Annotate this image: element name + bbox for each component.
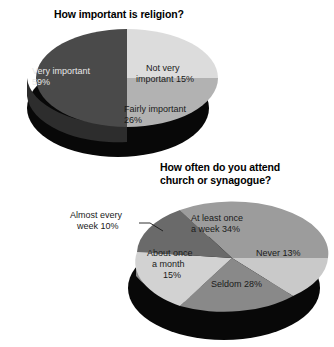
chart-2-pie: At least once a week 34% Never 13% Seldo…	[0, 0, 334, 347]
chart-2-label-never: Never 13%	[256, 248, 301, 258]
infographic-canvas: How important is religion? Very importan…	[0, 0, 334, 347]
chart-2-label-almost-every-week-line2: week 10%	[76, 221, 119, 231]
chart-2-label-about-once-line2: a month	[152, 259, 185, 269]
chart-2-label-at-least-once-line2: a week 34%	[191, 224, 240, 234]
chart-2-label-about-once-line3: 15%	[163, 270, 181, 280]
chart-2-label-at-least-once-line1: At least once	[191, 213, 243, 223]
chart-2-label-seldom: Seldom 28%	[211, 279, 262, 289]
chart-2-label-about-once-line1: About once	[147, 248, 193, 258]
chart-2-label-almost-every-week-line1: Almost every	[70, 210, 123, 220]
